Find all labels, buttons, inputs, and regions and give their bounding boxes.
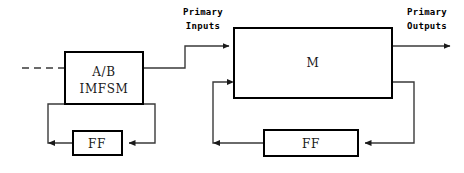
block-diagram-svg: A/B IMFSM M FF FF Primary Inputs Primary… bbox=[0, 0, 464, 173]
arrow-into-m-left-icon bbox=[227, 79, 234, 85]
ff-left-label: FF bbox=[88, 137, 106, 151]
ab-imfsm-label-line2: IMFSM bbox=[80, 82, 129, 96]
arrow-into-ff-right-icon bbox=[213, 140, 220, 146]
primary-outputs-label: Primary Outputs bbox=[407, 7, 447, 31]
machine-m-block[interactable]: M bbox=[234, 28, 392, 98]
primary-inputs-line2: Inputs bbox=[186, 21, 220, 31]
ff-right-block[interactable]: FF bbox=[264, 130, 358, 156]
primary-outputs-line2: Outputs bbox=[407, 21, 447, 31]
ab-imfsm-label-line1: A/B bbox=[91, 65, 115, 79]
machine-m-label: M bbox=[307, 56, 320, 70]
ab-to-m-wire bbox=[143, 46, 229, 68]
ff-right-label: FF bbox=[302, 137, 320, 151]
primary-inputs-label: Primary Inputs bbox=[183, 7, 223, 31]
ab-to-ff-left-wire bbox=[129, 104, 155, 143]
arrow-into-ab-left-icon bbox=[48, 140, 55, 146]
ff-left-block[interactable]: FF bbox=[73, 131, 122, 155]
ff-left-to-ab-wire bbox=[48, 104, 73, 143]
primary-outputs-line1: Primary bbox=[407, 7, 447, 17]
primary-inputs-line1: Primary bbox=[183, 7, 223, 17]
ab-imfsm-block[interactable]: A/B IMFSM bbox=[65, 52, 143, 104]
diagram-canvas: A/B IMFSM M FF FF Primary Inputs Primary… bbox=[0, 0, 464, 173]
